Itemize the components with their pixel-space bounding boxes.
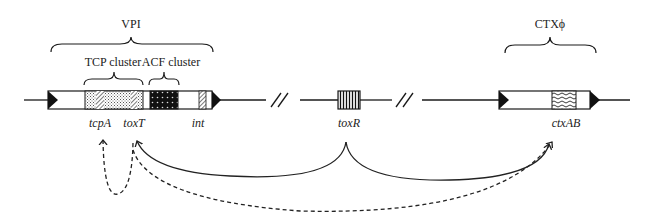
toxR-label: toxR (338, 116, 361, 130)
arrow-toxR-to-ctxAB (346, 142, 549, 180)
tcp-brace (84, 72, 143, 85)
ctx-brace (505, 37, 596, 53)
ctxAB-label: ctxAB (552, 116, 581, 130)
acf-brace (149, 72, 179, 85)
tcpA-gene (96, 91, 104, 109)
vpi-label: VPI (121, 17, 140, 31)
ctxAB-gene (552, 91, 576, 109)
tcp-cluster-label: TCP cluster (85, 55, 142, 69)
toxT-gene (131, 91, 137, 109)
ctx-element (499, 91, 600, 109)
acf-region (150, 91, 178, 109)
tcpA-label: tcpA (89, 116, 112, 130)
regulatory-diagram: VPI TCP cluster ACF cluster CTXϕ tcpA to… (0, 0, 653, 218)
toxT-label: toxT (123, 116, 146, 130)
att-site-right-icon (212, 91, 221, 109)
int-gene (199, 91, 206, 109)
toxR-gene (338, 91, 360, 109)
arrow-toxR-to-toxT (137, 141, 346, 177)
vpi-element (48, 91, 221, 109)
vpi-brace (51, 37, 213, 52)
att-site-right-icon (590, 91, 600, 109)
int-label: int (192, 116, 205, 130)
ctx-label: CTXϕ (535, 17, 565, 31)
acf-cluster-label: ACF cluster (142, 55, 200, 69)
arrow-toxT-to-tcpA (103, 140, 133, 194)
